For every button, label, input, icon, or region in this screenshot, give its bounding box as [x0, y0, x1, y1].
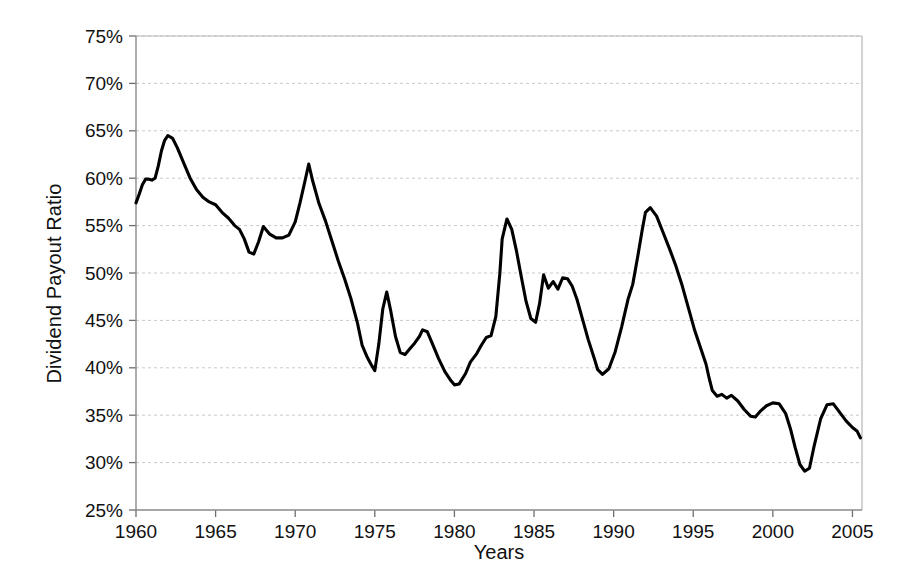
- x-tick-label: 2000: [752, 521, 794, 542]
- y-tick-label: 30%: [85, 452, 123, 473]
- y-tick-label: 40%: [85, 357, 123, 378]
- x-tick-label: 1970: [274, 521, 316, 542]
- y-axis-ticks-group: 25%30%35%40%45%50%55%60%65%70%75%: [85, 26, 136, 521]
- gridlines-group: [136, 36, 862, 463]
- y-tick-label: 35%: [85, 405, 123, 426]
- x-tick-label: 1960: [115, 521, 157, 542]
- x-tick-label: 1985: [513, 521, 555, 542]
- x-tick-label: 1975: [354, 521, 396, 542]
- y-tick-label: 60%: [85, 168, 123, 189]
- y-tick-label: 50%: [85, 263, 123, 284]
- x-tick-label: 1995: [672, 521, 714, 542]
- x-tick-label: 2005: [831, 521, 873, 542]
- y-tick-label: 55%: [85, 215, 123, 236]
- chart-container: Dividend Payout Ratio 25%30%35%40%45%50%…: [0, 0, 918, 582]
- y-tick-label: 75%: [85, 26, 123, 47]
- x-tick-label: 1990: [592, 521, 634, 542]
- y-tick-label: 45%: [85, 310, 123, 331]
- x-axis-ticks-group: 1960196519701975198019851990199520002005: [115, 510, 874, 542]
- y-tick-label: 65%: [85, 120, 123, 141]
- x-tick-label: 1965: [194, 521, 236, 542]
- x-tick-label: 1980: [433, 521, 475, 542]
- x-axis-title: Years: [136, 541, 862, 564]
- y-tick-label: 25%: [85, 500, 123, 521]
- line-chart-plot: 25%30%35%40%45%50%55%60%65%70%75% 196019…: [0, 0, 918, 582]
- y-tick-label: 70%: [85, 73, 123, 94]
- dividend-payout-ratio-line: [136, 136, 860, 472]
